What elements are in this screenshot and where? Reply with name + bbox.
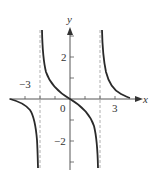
x-axis-arrow-icon [135, 96, 143, 102]
y-tick-label-neg2: −2 [54, 135, 66, 147]
curve-left-branch [10, 99, 38, 168]
y-axis-label: y [66, 13, 72, 25]
x-axis-label: x [142, 93, 148, 105]
y-axis-arrow-icon [67, 27, 73, 35]
curve-right-branch [102, 30, 130, 98]
origin-label: 0 [60, 102, 66, 114]
x-tick-label-neg3: −3 [19, 78, 31, 90]
x-tick-label-3: 3 [112, 102, 118, 114]
y-tick-label-2: 2 [61, 51, 67, 63]
chart: −3 3 0 2 −2 x y [0, 0, 149, 177]
